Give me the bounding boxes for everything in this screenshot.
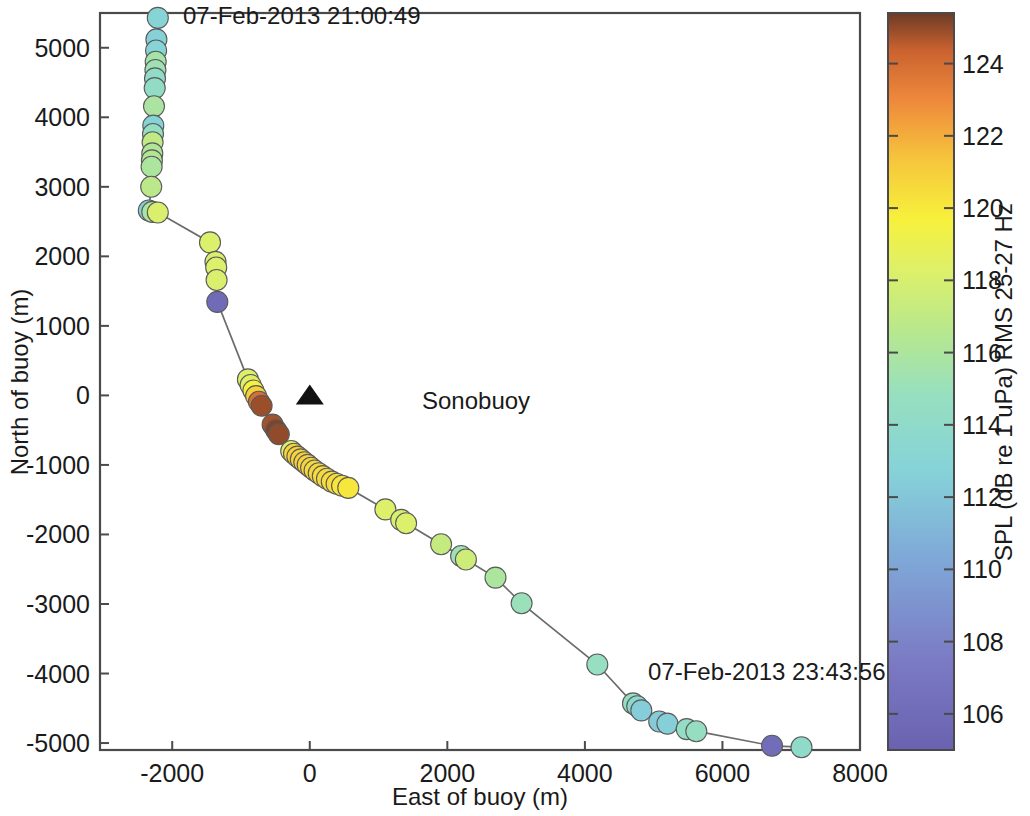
- y-tick-label: 0: [76, 381, 90, 409]
- sonobuoy-label: Sonobuoy: [422, 387, 530, 414]
- data-point: [762, 735, 783, 756]
- data-point: [200, 232, 221, 253]
- data-point: [144, 96, 165, 117]
- x-tick-label: 0: [303, 759, 317, 787]
- data-point: [631, 700, 652, 721]
- scatter-plot-figure: -200002000400060008000 -5000-4000-3000-2…: [0, 0, 1030, 816]
- y-tick-label: -4000: [26, 660, 90, 688]
- x-tick-label: -2000: [140, 759, 204, 787]
- figure-root: -200002000400060008000 -5000-4000-3000-2…: [0, 0, 1030, 816]
- start-time-annotation: 07-Feb-2013 21:00:49: [183, 2, 421, 29]
- data-point: [657, 713, 678, 734]
- y-tick-label: 5000: [34, 34, 90, 62]
- y-tick-label: -3000: [26, 590, 90, 618]
- end-time-annotation: 07-Feb-2013 23:43:56: [648, 658, 886, 685]
- x-tick-label: 8000: [832, 759, 888, 787]
- data-point: [511, 593, 532, 614]
- data-point: [206, 270, 227, 291]
- data-point: [251, 395, 272, 416]
- colorbar-title: SPL (dB re 1 uPa) RMS 25-27 Hz: [990, 203, 1017, 561]
- data-point: [485, 567, 506, 588]
- y-tick-label: -5000: [26, 729, 90, 757]
- data-point: [587, 654, 608, 675]
- y-tick-label: 4000: [34, 103, 90, 131]
- data-point: [141, 156, 162, 177]
- x-axis-title: East of buoy (m): [392, 783, 568, 810]
- x-tick-label: 6000: [695, 759, 751, 787]
- data-point: [141, 176, 162, 197]
- colorbar-tick-label: 122: [962, 122, 1004, 150]
- colorbar-tick-label: 124: [962, 50, 1004, 78]
- y-tick-label: 2000: [34, 242, 90, 270]
- data-point: [431, 534, 452, 555]
- y-tick-label: -2000: [26, 520, 90, 548]
- y-tick-label: 3000: [34, 173, 90, 201]
- data-point: [338, 477, 359, 498]
- y-tick-label: 1000: [34, 312, 90, 340]
- colorbar-tick-label: 106: [962, 700, 1004, 728]
- data-point: [207, 291, 228, 312]
- data-point: [147, 7, 168, 28]
- data-point: [396, 513, 417, 534]
- y-axis-title: North of buoy (m): [6, 289, 33, 476]
- data-point: [791, 737, 812, 758]
- colorbar-gradient: [888, 13, 954, 750]
- y-tick-label: -1000: [26, 451, 90, 479]
- colorbar: 106108110112114116118120122124 SPL (dB r…: [888, 13, 1017, 750]
- colorbar-tick-label: 108: [962, 628, 1004, 656]
- data-point: [686, 721, 707, 742]
- data-point: [147, 202, 168, 223]
- data-point: [455, 549, 476, 570]
